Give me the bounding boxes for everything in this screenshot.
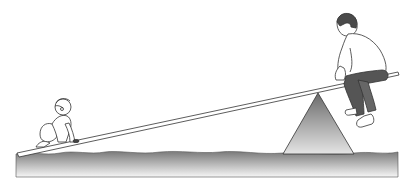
seesaw-scene [0,0,415,179]
ground [16,151,398,177]
boy-figure [335,13,388,127]
baby-figure [36,99,79,147]
seesaw-illustration [0,0,415,179]
fulcrum [283,93,354,154]
